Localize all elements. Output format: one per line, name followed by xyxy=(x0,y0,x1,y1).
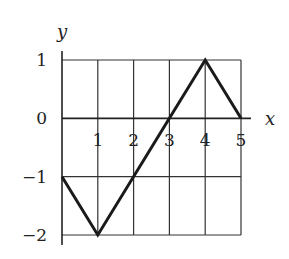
y-tick-label: −2 xyxy=(22,225,47,245)
line-chart: 1234510−1−2 x y xyxy=(0,0,289,259)
data-series xyxy=(62,60,241,235)
x-axis-label: x xyxy=(265,108,275,129)
y-tick-label: −1 xyxy=(22,167,47,187)
x-tick-label: 2 xyxy=(128,130,139,150)
series-line xyxy=(62,60,241,235)
x-tick-label: 3 xyxy=(164,130,175,150)
y-tick-label: 1 xyxy=(36,50,47,70)
y-axis-label: y xyxy=(56,21,68,42)
x-tick-label: 5 xyxy=(236,130,247,150)
x-tick-label: 4 xyxy=(200,130,211,150)
y-tick-label: 0 xyxy=(36,108,47,128)
axes xyxy=(62,51,251,245)
x-tick-label: 1 xyxy=(92,130,103,150)
